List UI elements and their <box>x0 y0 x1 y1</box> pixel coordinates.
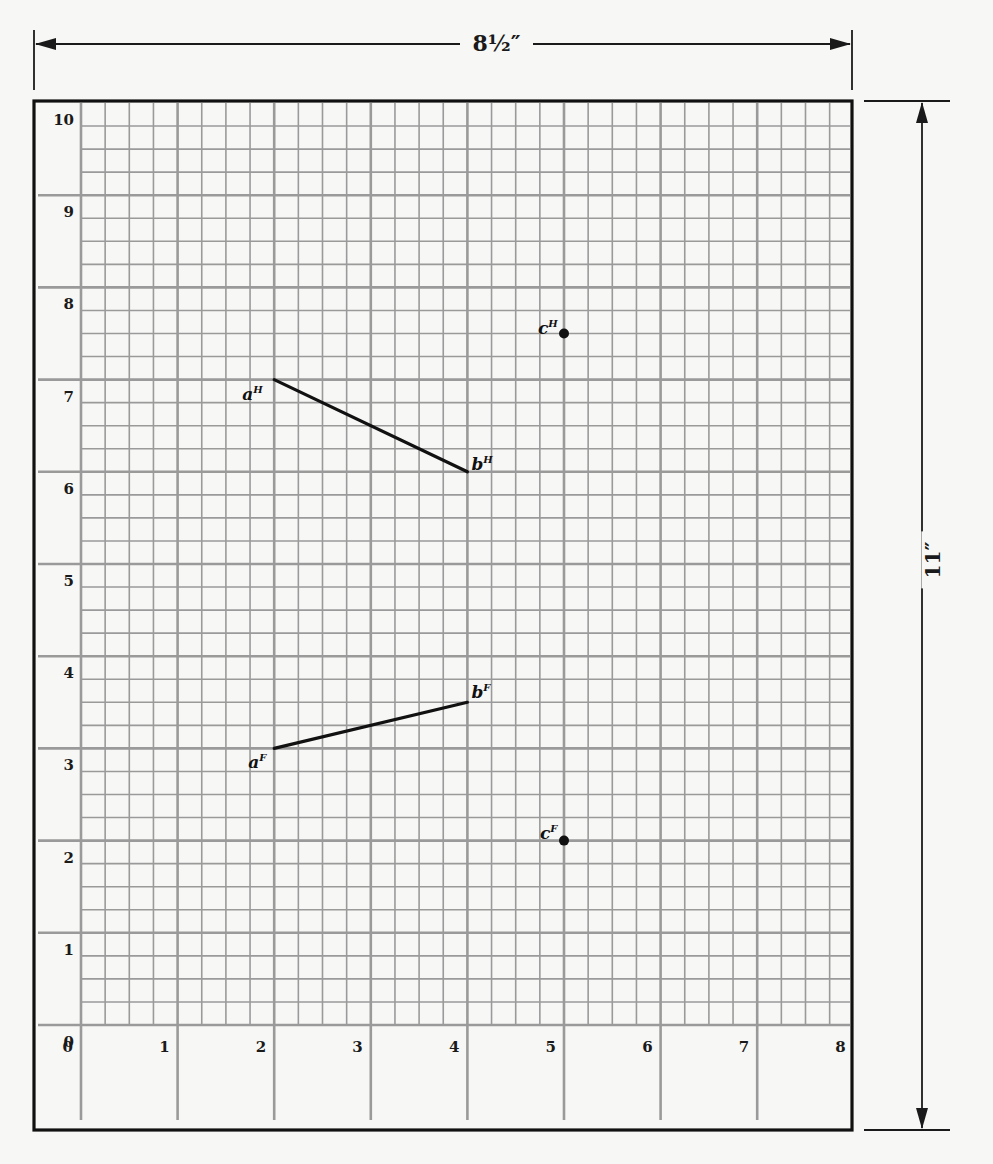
arrowhead-down-icon <box>916 1108 928 1129</box>
y-tick-label: 4 <box>64 664 74 682</box>
graph-paper-diagram: 012345678910012345678 aHbHcHaFbFcF <box>0 0 993 1164</box>
x-tick-label: 4 <box>449 1038 459 1056</box>
y-tick-label: 7 <box>64 388 74 406</box>
y-tick-label: 10 <box>53 111 74 129</box>
y-tick-label: 1 <box>64 941 74 959</box>
y-tick-label: 8 <box>64 295 74 313</box>
point-label-bF: bF <box>471 682 491 702</box>
axis-tick-labels: 012345678910012345678 <box>53 111 846 1056</box>
x-tick-label: 0 <box>63 1038 73 1056</box>
width-dimension-label: 8½″ <box>0 32 993 54</box>
point-label-aF: aF <box>248 752 267 772</box>
y-tick-label: 9 <box>64 203 74 221</box>
point-label-cH: cH <box>538 318 558 338</box>
projection-geometry: aHbHcHaFbFcF <box>242 318 569 846</box>
point-label-aH: aH <box>242 384 263 404</box>
y-tick-label: 2 <box>64 849 74 867</box>
x-tick-label: 1 <box>159 1038 169 1056</box>
x-tick-label: 3 <box>352 1038 362 1056</box>
x-tick-label: 2 <box>256 1038 266 1056</box>
x-tick-label: 7 <box>739 1038 749 1056</box>
point-cH-dot <box>559 329 569 339</box>
x-tick-label: 8 <box>835 1038 845 1056</box>
y-tick-label: 3 <box>64 756 74 774</box>
drawing-sheet: 012345678910012345678 aHbHcHaFbFcF 8½″ 1… <box>0 0 993 1164</box>
point-cF-dot <box>559 836 569 846</box>
arrowhead-up-icon <box>916 102 928 123</box>
x-tick-label: 5 <box>546 1038 556 1056</box>
y-tick-label: 5 <box>64 572 74 590</box>
width-dimension-text: 8½″ <box>460 30 532 56</box>
height-dimension-label: 11″ <box>921 532 945 589</box>
y-tick-label: 6 <box>64 480 74 498</box>
x-tick-label: 6 <box>642 1038 652 1056</box>
